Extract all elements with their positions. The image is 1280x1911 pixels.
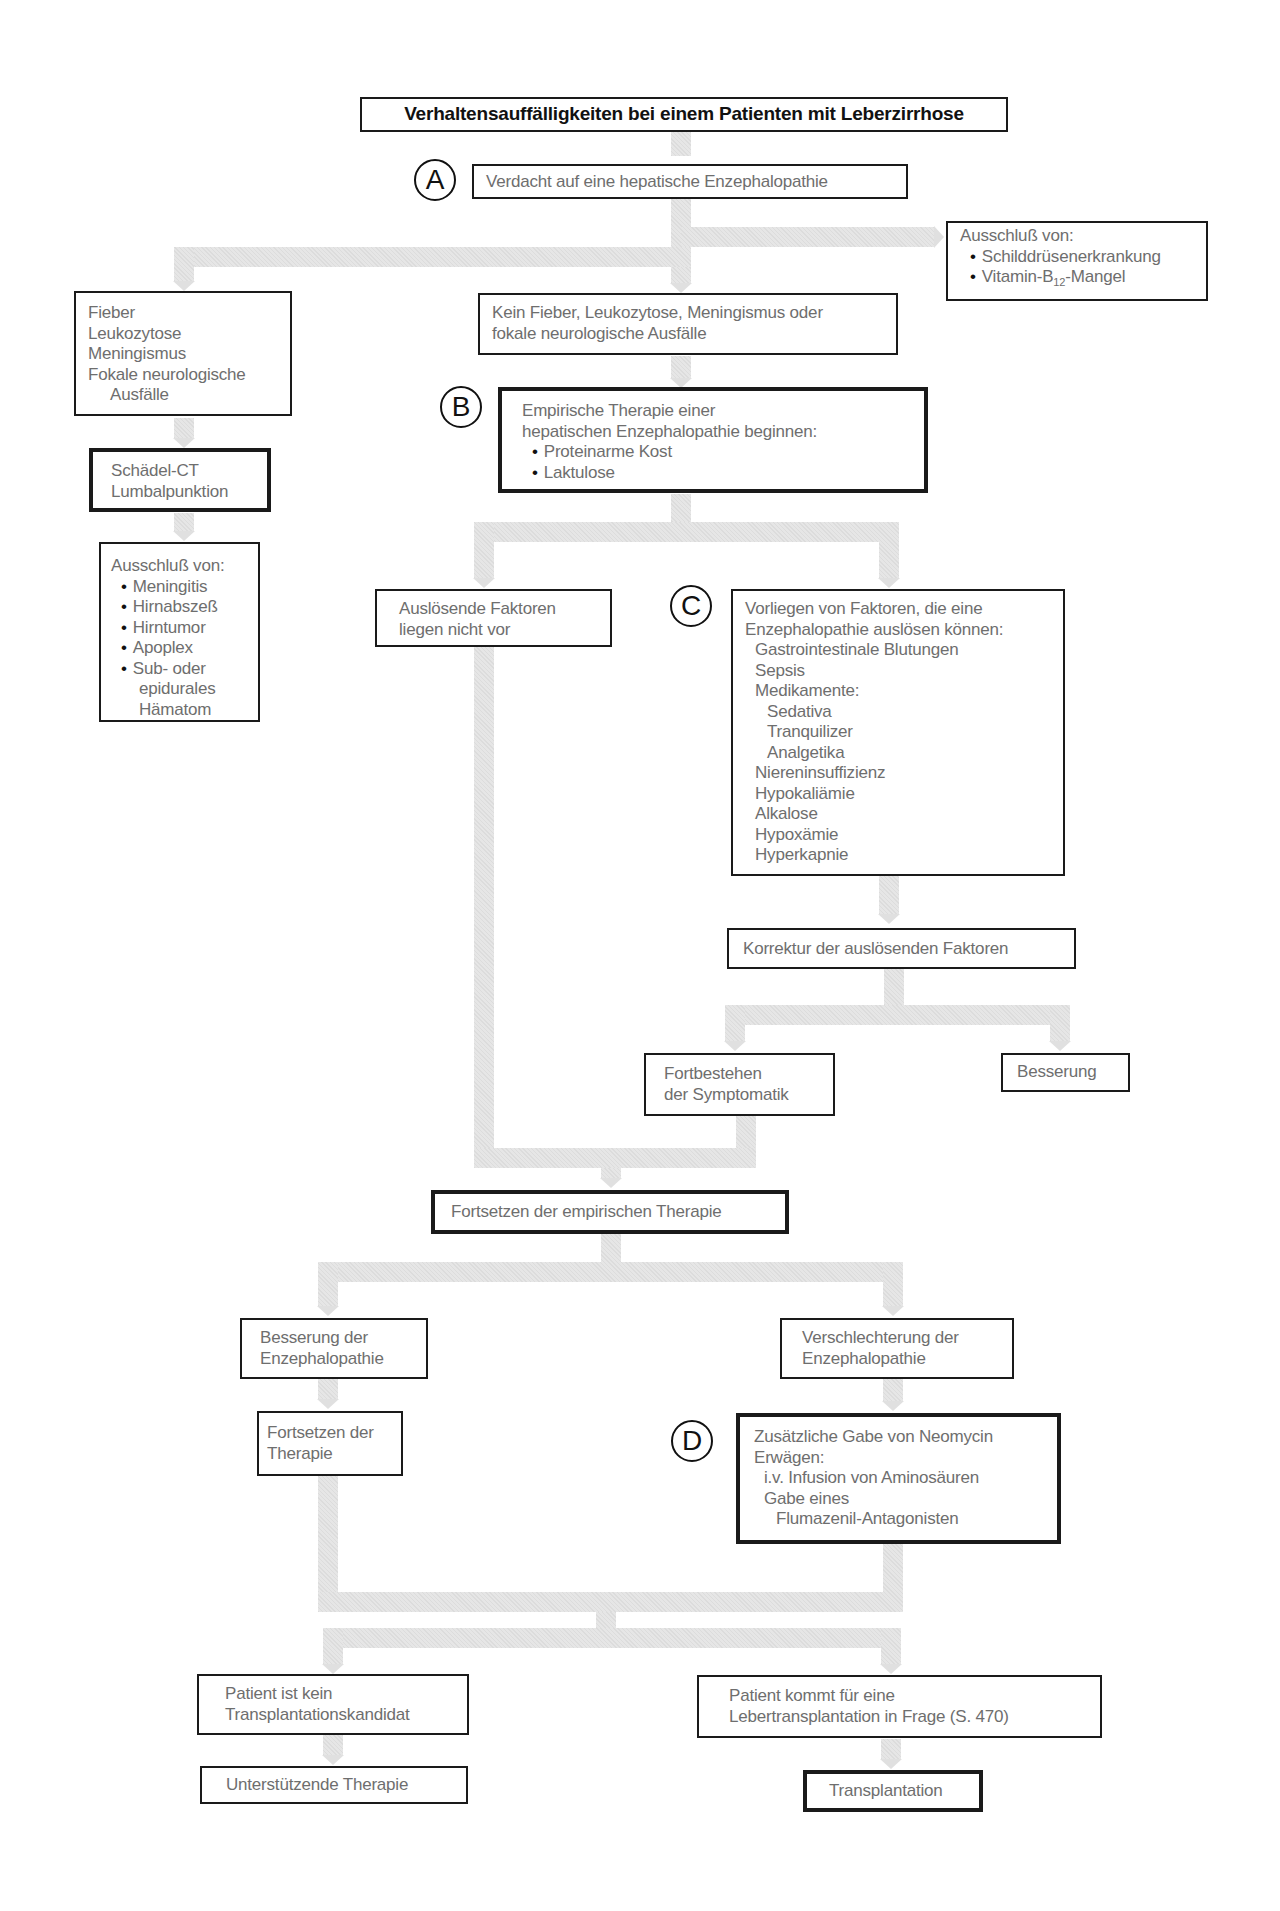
node-besserung: Besserung bbox=[1001, 1053, 1130, 1092]
node-line: Fortbestehen bbox=[664, 1064, 821, 1085]
list-item: Hypokaliämie bbox=[745, 784, 1051, 805]
node-empirische-therapie: Empirische Therapie einer hepatischen En… bbox=[498, 387, 928, 493]
node-line: Enzephalopathie bbox=[802, 1349, 1000, 1370]
node-heading: Ausschluß von: bbox=[960, 226, 1194, 247]
node-fortsetzen-empirisch: Fortsetzen der empirischen Therapie bbox=[431, 1190, 789, 1234]
node-line: Auslösende Faktoren bbox=[399, 599, 598, 620]
marker-c: C bbox=[670, 585, 712, 627]
list-subitem: Analgetika bbox=[745, 743, 1051, 764]
subscript: 12 bbox=[1053, 276, 1065, 288]
node-schaedel-ct: Schädel-CT Lumbalpunktion bbox=[89, 448, 271, 512]
node-line: Verschlechterung der bbox=[802, 1328, 1000, 1349]
flowchart-title: Verhaltensauffälligkeiten bei einem Pati… bbox=[360, 97, 1008, 132]
list-item: Laktulose bbox=[522, 463, 912, 484]
node-neomycin: Zusätzliche Gabe von Neomycin Erwägen: i… bbox=[736, 1413, 1061, 1544]
node-line: liegen nicht vor bbox=[399, 620, 598, 641]
node-besserung-enzephalopathie: Besserung der Enzephalopathie bbox=[240, 1318, 428, 1379]
node-line: Erwägen: bbox=[754, 1448, 1045, 1469]
node-line: Fieber bbox=[88, 303, 278, 324]
node-line: Transplantationskandidat bbox=[225, 1705, 455, 1726]
list-item: Medikamente: bbox=[745, 681, 1051, 702]
marker-b: B bbox=[440, 386, 482, 428]
node-verschlechterung-enzephalopathie: Verschlechterung der Enzephalopathie bbox=[780, 1318, 1014, 1379]
node-kein-fieber: Kein Fieber, Leukozytose, Meningismus od… bbox=[478, 293, 898, 355]
list-item: Meningitis bbox=[111, 577, 246, 598]
node-ausloesende-nicht: Auslösende Faktoren liegen nicht vor bbox=[375, 589, 612, 647]
node-line: Besserung der bbox=[260, 1328, 414, 1349]
node-line: Patient ist kein bbox=[225, 1684, 455, 1705]
node-line: fokale neurologische Ausfälle bbox=[492, 324, 884, 345]
list-subitem: Tranquilizer bbox=[745, 722, 1051, 743]
marker-a: A bbox=[414, 159, 456, 201]
node-kein-kandidat: Patient ist kein Transplantationskandida… bbox=[197, 1674, 469, 1735]
node-line: Schädel-CT bbox=[111, 461, 255, 482]
node-line: Zusätzliche Gabe von Neomycin bbox=[754, 1427, 1045, 1448]
node-fortbestehen: Fortbestehen der Symptomatik bbox=[644, 1053, 835, 1116]
list-item: Hyperkapnie bbox=[745, 845, 1051, 866]
list-item-text: -Mangel bbox=[1065, 267, 1125, 286]
list-item-continuation: epidurales bbox=[111, 679, 246, 700]
list-item-continuation: Hämatom bbox=[111, 700, 246, 721]
list-item: Vitamin-B12-Mangel bbox=[960, 267, 1194, 293]
list-subitem: Sedativa bbox=[745, 702, 1051, 723]
node-korrektur: Korrektur der auslösenden Faktoren bbox=[727, 928, 1076, 969]
list-item-text: Vitamin-B bbox=[982, 267, 1054, 286]
list-item: Sub- oder bbox=[111, 659, 246, 680]
node-unterstuetzende-therapie: Unterstützende Therapie bbox=[200, 1766, 468, 1804]
node-line: hepatischen Enzephalopathie beginnen: bbox=[522, 422, 912, 443]
list-item: Sepsis bbox=[745, 661, 1051, 682]
node-line: Fortsetzen der bbox=[267, 1423, 389, 1444]
node-line: Vorliegen von Faktoren, die eine bbox=[745, 599, 1051, 620]
list-item: Hirnabszeß bbox=[111, 597, 246, 618]
node-line: Enzephalopathie auslösen können: bbox=[745, 620, 1051, 641]
node-line: Ausfälle bbox=[88, 385, 278, 406]
node-line: Lebertransplantation in Frage (S. 470) bbox=[729, 1707, 1088, 1728]
node-faktoren: Vorliegen von Faktoren, die eine Enzepha… bbox=[731, 589, 1065, 876]
list-item: Hirntumor bbox=[111, 618, 246, 639]
list-item: Flumazenil-Antagonisten bbox=[754, 1509, 1045, 1530]
list-item: Gabe eines bbox=[754, 1489, 1045, 1510]
list-item: i.v. Infusion von Aminosäuren bbox=[754, 1468, 1045, 1489]
node-fortsetzen-therapie: Fortsetzen der Therapie bbox=[257, 1411, 403, 1476]
node-line: der Symptomatik bbox=[664, 1085, 821, 1106]
node-line: Fokale neurologische bbox=[88, 365, 278, 386]
list-item: Proteinarme Kost bbox=[522, 442, 912, 463]
list-item: Apoplex bbox=[111, 638, 246, 659]
list-item: Schilddrüsenerkrankung bbox=[960, 247, 1194, 268]
node-line: Leukozytose bbox=[88, 324, 278, 345]
list-item: Gastrointestinale Blutungen bbox=[745, 640, 1051, 661]
node-fieber: Fieber Leukozytose Meningismus Fokale ne… bbox=[74, 291, 292, 416]
list-item: Alkalose bbox=[745, 804, 1051, 825]
node-line: Kein Fieber, Leukozytose, Meningismus od… bbox=[492, 303, 884, 324]
node-line: Therapie bbox=[267, 1444, 389, 1465]
node-ausschluss-left: Ausschluß von: Meningitis Hirnabszeß Hir… bbox=[99, 542, 260, 722]
node-line: Empirische Therapie einer bbox=[522, 401, 912, 422]
node-verdacht: Verdacht auf eine hepatische Enzephalopa… bbox=[472, 164, 908, 199]
marker-d: D bbox=[671, 1420, 713, 1462]
node-line: Meningismus bbox=[88, 344, 278, 365]
node-heading: Ausschluß von: bbox=[111, 556, 246, 577]
node-line: Patient kommt für eine bbox=[729, 1686, 1088, 1707]
list-item: Hypoxämie bbox=[745, 825, 1051, 846]
node-transplantation: Transplantation bbox=[803, 1770, 983, 1812]
node-kandidat: Patient kommt für eine Lebertransplantat… bbox=[697, 1675, 1102, 1738]
node-line: Enzephalopathie bbox=[260, 1349, 414, 1370]
node-line: Lumbalpunktion bbox=[111, 482, 255, 503]
list-item: Niereninsuffizienz bbox=[745, 763, 1051, 784]
node-ausschluss-right: Ausschluß von: Schilddrüsenerkrankung Vi… bbox=[946, 221, 1208, 301]
